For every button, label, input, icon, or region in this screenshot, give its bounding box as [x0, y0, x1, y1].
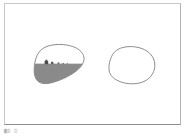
left-blob-sky: [29, 40, 89, 64]
scanned-page: ▓▒ ▒: [0, 0, 186, 138]
dark-bump-icon: [62, 63, 63, 64]
dark-bump-icon: [51, 62, 53, 64]
right-blob-shape: [101, 41, 159, 89]
right-blob-outline: [109, 47, 155, 84]
dark-bump-icon: [58, 62, 60, 64]
caption-mark-right: ▒: [14, 128, 17, 133]
scan-frame: [4, 3, 181, 125]
dark-bump-icon: [45, 60, 47, 61]
dark-bump-icon: [67, 63, 68, 64]
caption-mark-left: ▓▒: [4, 128, 10, 133]
figure-area: [5, 4, 182, 126]
dark-bump-icon: [45, 61, 49, 64]
caption-strip: ▓▒ ▒: [4, 128, 64, 136]
left-blob-shape: [29, 40, 89, 90]
